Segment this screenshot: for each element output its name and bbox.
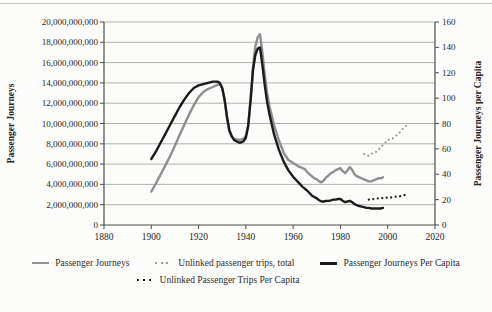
chart-area: 02,000,000,0004,000,000,0006,000,000,000… (0, 0, 492, 256)
x-axis-tick-label: 1880 (95, 232, 114, 242)
series-line-0 (151, 34, 383, 191)
series-line-1 (364, 126, 407, 157)
left-axis-tick-label: 4,000,000,000 (46, 179, 98, 189)
right-axis-tick-label: 120 (442, 68, 456, 78)
figure: 02,000,000,0004,000,000,0006,000,000,000… (0, 0, 492, 312)
left-axis-tick-label: 8,000,000,000 (46, 139, 98, 149)
left-axis-tick-label: 18,000,000,000 (42, 37, 99, 47)
left-axis-title: Passenger Journeys (6, 83, 16, 163)
gray-solid-line-swatch (32, 262, 49, 265)
legend-label: Unlinked Passenger Trips Per Capita (160, 275, 300, 285)
right-axis-tick-label: 0 (442, 220, 447, 230)
x-axis-tick-label: 1960 (284, 232, 303, 242)
black-dotted-line-swatch (137, 279, 154, 282)
legend-item-unlinked-trips-per-capita: Unlinked Passenger Trips Per Capita (137, 275, 300, 285)
x-axis-tick-label: 2000 (378, 232, 397, 242)
x-axis-tick-label: 1900 (142, 232, 161, 242)
left-axis-tick-label: 2,000,000,000 (46, 200, 98, 210)
legend-item-journeys-per-capita: Passenger Journeys Per Capita (320, 258, 459, 268)
legend-row-2: Unlinked Passenger Trips Per Capita (0, 275, 464, 285)
right-axis-tick-label: 40 (442, 169, 452, 179)
black-solid-line-swatch (320, 262, 337, 265)
left-axis-tick-label: 6,000,000,000 (46, 159, 98, 169)
right-axis-tick-label: 140 (442, 42, 456, 52)
left-axis-tick-label: 14,000,000,000 (42, 78, 99, 88)
legend-item-unlinked-trips-total: Unlinked passenger trips, total (155, 258, 294, 268)
x-axis-tick-label: 1920 (189, 232, 208, 242)
x-axis-tick-label: 1980 (331, 232, 350, 242)
right-axis-tick-label: 60 (442, 144, 452, 154)
left-axis-tick-label: 0 (94, 220, 99, 230)
left-axis-tick-label: 20,000,000,000 (42, 17, 99, 27)
series-line-3 (369, 195, 407, 200)
right-axis-tick-label: 80 (442, 119, 452, 129)
x-axis-tick-label: 1940 (236, 232, 255, 242)
right-axis-tick-label: 160 (442, 17, 456, 27)
legend-item-passenger-journeys: Passenger Journeys (32, 258, 129, 268)
left-axis-tick-label: 12,000,000,000 (42, 98, 99, 108)
right-axis-title: Passenger Journeys per Capita (473, 60, 483, 186)
legend-row-1: Passenger Journeys Unlinked passenger tr… (0, 258, 492, 268)
right-axis-tick-label: 100 (442, 93, 456, 103)
left-axis-tick-label: 10,000,000,000 (42, 119, 99, 129)
legend-label: Unlinked passenger trips, total (178, 258, 294, 268)
line-chart: 02,000,000,0004,000,000,0006,000,000,000… (0, 0, 492, 256)
x-axis-tick-label: 2020 (426, 232, 445, 242)
legend: Passenger Journeys Unlinked passenger tr… (0, 258, 492, 285)
legend-label: Passenger Journeys Per Capita (343, 258, 459, 268)
left-axis-tick-label: 16,000,000,000 (42, 58, 99, 68)
gray-dotted-line-swatch (155, 262, 172, 264)
legend-label: Passenger Journeys (55, 258, 129, 268)
right-axis-tick-label: 20 (442, 195, 452, 205)
